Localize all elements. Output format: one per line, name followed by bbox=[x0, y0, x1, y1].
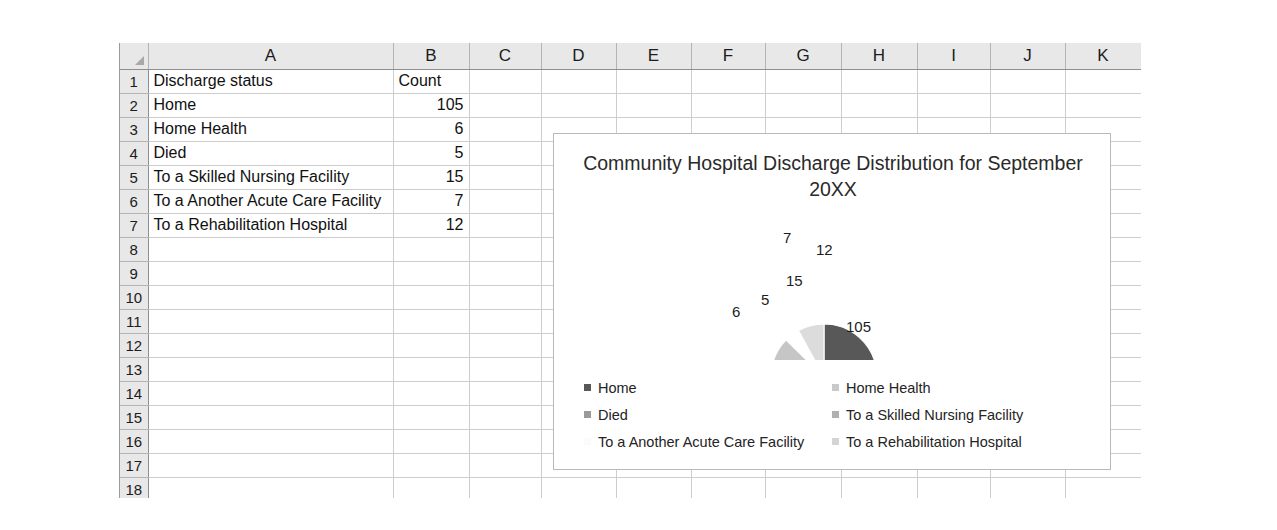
cell-c3[interactable] bbox=[469, 117, 541, 141]
cell-e18[interactable] bbox=[616, 477, 691, 498]
legend-item-3[interactable]: To a Skilled Nursing Facility bbox=[832, 407, 1084, 423]
cell-a4[interactable]: Died bbox=[148, 141, 393, 165]
cell-g1[interactable] bbox=[765, 69, 841, 93]
legend-item-5[interactable]: To a Rehabilitation Hospital bbox=[832, 434, 1084, 450]
cell-a6[interactable]: To a Another Acute Care Facility bbox=[148, 189, 393, 213]
cell-a12[interactable] bbox=[148, 333, 393, 357]
cell-c15[interactable] bbox=[469, 405, 541, 429]
cell-a17[interactable] bbox=[148, 453, 393, 477]
cell-c14[interactable] bbox=[469, 381, 541, 405]
cell-b9[interactable] bbox=[393, 261, 469, 285]
cell-a13[interactable] bbox=[148, 357, 393, 381]
row-header-14[interactable]: 14 bbox=[120, 381, 148, 405]
cell-i1[interactable] bbox=[917, 69, 990, 93]
cell-f1[interactable] bbox=[691, 69, 765, 93]
cell-i2[interactable] bbox=[917, 93, 990, 117]
cell-c9[interactable] bbox=[469, 261, 541, 285]
cell-b11[interactable] bbox=[393, 309, 469, 333]
cell-a5[interactable]: To a Skilled Nursing Facility bbox=[148, 165, 393, 189]
cell-i18[interactable] bbox=[917, 477, 990, 498]
table-row[interactable]: 18 bbox=[120, 477, 1141, 498]
cell-a18[interactable] bbox=[148, 477, 393, 498]
cell-g2[interactable] bbox=[765, 93, 841, 117]
cell-b4[interactable]: 5 bbox=[393, 141, 469, 165]
cell-a8[interactable] bbox=[148, 237, 393, 261]
legend-item-4[interactable]: To a Another Acute Care Facility bbox=[584, 434, 832, 450]
cell-b15[interactable] bbox=[393, 405, 469, 429]
cell-a2[interactable]: Home bbox=[148, 93, 393, 117]
column-header-f[interactable]: F bbox=[691, 43, 765, 69]
row-header-6[interactable]: 6 bbox=[120, 189, 148, 213]
cell-c18[interactable] bbox=[469, 477, 541, 498]
row-header-13[interactable]: 13 bbox=[120, 357, 148, 381]
cell-e1[interactable] bbox=[616, 69, 691, 93]
cell-c13[interactable] bbox=[469, 357, 541, 381]
cell-b12[interactable] bbox=[393, 333, 469, 357]
cell-c4[interactable] bbox=[469, 141, 541, 165]
cell-b18[interactable] bbox=[393, 477, 469, 498]
table-row[interactable]: 1Discharge statusCount bbox=[120, 69, 1141, 93]
cell-c10[interactable] bbox=[469, 285, 541, 309]
cell-a11[interactable] bbox=[148, 309, 393, 333]
select-all-corner[interactable] bbox=[120, 43, 148, 69]
cell-a3[interactable]: Home Health bbox=[148, 117, 393, 141]
table-row[interactable]: 2Home105 bbox=[120, 93, 1141, 117]
cell-c12[interactable] bbox=[469, 333, 541, 357]
row-header-17[interactable]: 17 bbox=[120, 453, 148, 477]
row-header-18[interactable]: 18 bbox=[120, 477, 148, 498]
cell-f18[interactable] bbox=[691, 477, 765, 498]
row-header-9[interactable]: 9 bbox=[120, 261, 148, 285]
column-header-k[interactable]: K bbox=[1065, 43, 1141, 69]
cell-c5[interactable] bbox=[469, 165, 541, 189]
cell-b2[interactable]: 105 bbox=[393, 93, 469, 117]
cell-b13[interactable] bbox=[393, 357, 469, 381]
column-header-d[interactable]: D bbox=[541, 43, 616, 69]
cell-c1[interactable] bbox=[469, 69, 541, 93]
cell-c8[interactable] bbox=[469, 237, 541, 261]
cell-b7[interactable]: 12 bbox=[393, 213, 469, 237]
cell-d1[interactable] bbox=[541, 69, 616, 93]
cell-b8[interactable] bbox=[393, 237, 469, 261]
cell-c6[interactable] bbox=[469, 189, 541, 213]
row-header-15[interactable]: 15 bbox=[120, 405, 148, 429]
cell-c2[interactable] bbox=[469, 93, 541, 117]
cell-d18[interactable] bbox=[541, 477, 616, 498]
column-header-c[interactable]: C bbox=[469, 43, 541, 69]
row-header-5[interactable]: 5 bbox=[120, 165, 148, 189]
cell-c11[interactable] bbox=[469, 309, 541, 333]
cell-c7[interactable] bbox=[469, 213, 541, 237]
column-header-h[interactable]: H bbox=[841, 43, 917, 69]
cell-g18[interactable] bbox=[765, 477, 841, 498]
cell-c16[interactable] bbox=[469, 429, 541, 453]
cell-b16[interactable] bbox=[393, 429, 469, 453]
cell-h18[interactable] bbox=[841, 477, 917, 498]
row-header-16[interactable]: 16 bbox=[120, 429, 148, 453]
cell-e2[interactable] bbox=[616, 93, 691, 117]
cell-b5[interactable]: 15 bbox=[393, 165, 469, 189]
column-header-e[interactable]: E bbox=[616, 43, 691, 69]
legend-item-2[interactable]: Died bbox=[584, 407, 832, 423]
row-header-2[interactable]: 2 bbox=[120, 93, 148, 117]
row-header-4[interactable]: 4 bbox=[120, 141, 148, 165]
legend-item-0[interactable]: Home bbox=[584, 380, 832, 396]
cell-k1[interactable] bbox=[1065, 69, 1141, 93]
cell-k18[interactable] bbox=[1065, 477, 1141, 498]
cell-b17[interactable] bbox=[393, 453, 469, 477]
cell-h1[interactable] bbox=[841, 69, 917, 93]
row-header-12[interactable]: 12 bbox=[120, 333, 148, 357]
embedded-pie-chart[interactable]: Community Hospital Discharge Distributio… bbox=[553, 133, 1111, 470]
cell-a16[interactable] bbox=[148, 429, 393, 453]
cell-a7[interactable]: To a Rehabilitation Hospital bbox=[148, 213, 393, 237]
cell-a10[interactable] bbox=[148, 285, 393, 309]
cell-a14[interactable] bbox=[148, 381, 393, 405]
cell-b6[interactable]: 7 bbox=[393, 189, 469, 213]
cell-a1[interactable]: Discharge status bbox=[148, 69, 393, 93]
cell-a9[interactable] bbox=[148, 261, 393, 285]
column-header-i[interactable]: I bbox=[917, 43, 990, 69]
column-header-g[interactable]: G bbox=[765, 43, 841, 69]
cell-d2[interactable] bbox=[541, 93, 616, 117]
cell-b14[interactable] bbox=[393, 381, 469, 405]
row-header-10[interactable]: 10 bbox=[120, 285, 148, 309]
cell-j18[interactable] bbox=[990, 477, 1065, 498]
column-header-a[interactable]: A bbox=[148, 43, 393, 69]
